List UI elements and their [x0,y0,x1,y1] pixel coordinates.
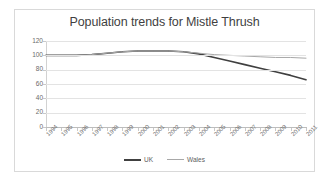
legend-label-uk: UK [144,157,153,164]
y-tick-mark [43,84,46,85]
chart-title: Population trends for Mistle Thrush [15,15,314,29]
x-tick-label: 2011 [305,124,318,137]
y-tick-label: 0 [21,124,43,131]
legend-item-wales[interactable]: Wales [167,157,205,164]
y-tick-label: 60 [21,81,43,88]
gridline [46,70,306,71]
y-axis-labels: 020406080100120 [18,41,43,127]
legend-label-wales: Wales [187,157,205,164]
legend-item-uk[interactable]: UK [124,157,153,164]
chart-legend: UK Wales [15,157,314,164]
plot-area [46,41,306,127]
legend-swatch-wales-icon [167,159,184,160]
gridline [46,84,306,85]
chart-figure: Population trends for Mistle Thrush 0204… [14,9,315,172]
y-tick-label: 20 [21,109,43,116]
y-tick-label: 120 [21,38,43,45]
y-tick-mark [43,55,46,56]
y-tick-label: 100 [21,52,43,59]
y-tick-mark [43,70,46,71]
gridline [46,113,306,114]
gridline [46,41,306,42]
y-tick-mark [43,113,46,114]
gridline [46,98,306,99]
legend-swatch-uk-icon [124,159,141,161]
gridline [46,55,306,56]
y-tick-mark [43,98,46,99]
y-tick-mark [43,127,46,128]
y-tick-mark [43,41,46,42]
y-tick-label: 40 [21,95,43,102]
y-tick-label: 80 [21,66,43,73]
